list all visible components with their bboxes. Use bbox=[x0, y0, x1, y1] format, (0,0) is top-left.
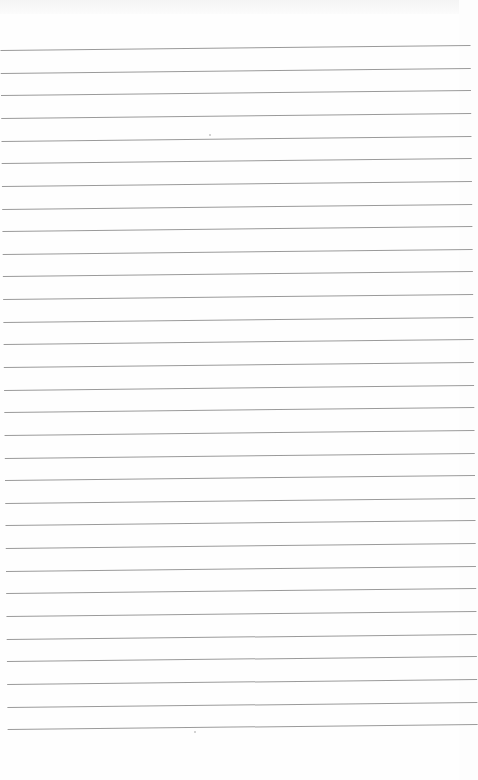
ruled-line bbox=[7, 679, 477, 685]
ruled-line bbox=[7, 656, 477, 662]
ruled-line bbox=[3, 294, 473, 300]
ruled-line bbox=[4, 407, 474, 413]
ruled-line bbox=[2, 158, 472, 164]
ruled-line bbox=[4, 385, 474, 391]
ruled-line bbox=[1, 45, 471, 51]
ruled-line bbox=[3, 317, 473, 323]
ruled-line bbox=[5, 498, 475, 504]
ruled-line bbox=[5, 430, 475, 436]
ruled-line bbox=[6, 543, 476, 549]
ruled-line bbox=[3, 249, 473, 255]
ruled-line bbox=[2, 181, 472, 187]
ruled-line bbox=[6, 520, 476, 526]
ruled-line bbox=[5, 475, 475, 481]
ruled-line bbox=[1, 90, 471, 96]
ruled-line bbox=[6, 566, 476, 572]
ruled-line bbox=[4, 339, 474, 345]
ruled-line bbox=[1, 136, 471, 142]
ruled-line bbox=[2, 204, 472, 210]
ruled-line bbox=[8, 724, 478, 730]
paper-speck bbox=[209, 134, 211, 136]
ruled-line bbox=[5, 453, 475, 459]
ruled-line bbox=[1, 113, 471, 119]
ruled-line bbox=[3, 271, 473, 277]
ruled-line bbox=[6, 588, 476, 594]
ruled-line bbox=[7, 634, 477, 640]
ruled-line bbox=[6, 611, 476, 617]
ruled-line bbox=[1, 68, 471, 74]
ruled-line bbox=[7, 702, 477, 708]
paper-speck bbox=[194, 731, 196, 733]
ruled-lines bbox=[0, 0, 478, 780]
ruled-line bbox=[4, 362, 474, 368]
ruled-line bbox=[2, 226, 472, 232]
